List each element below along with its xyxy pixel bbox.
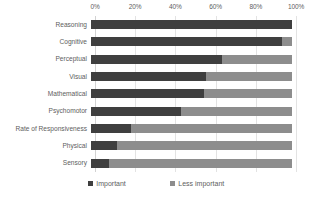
category-label: Reasoning [0, 21, 91, 29]
bar-row: Physical [0, 137, 312, 154]
bar-track [91, 37, 292, 46]
bar-segment-less-important [181, 107, 292, 116]
x-axis-tick-labels: 0%20%40%60%80%100% [95, 3, 296, 15]
bar-segment-important [91, 55, 222, 64]
bar-row: Sensory [0, 155, 312, 172]
bar-segment-less-important [206, 72, 292, 81]
bar-row: Psychomotor [0, 103, 312, 120]
legend-item[interactable]: Important [88, 180, 126, 187]
bar-segment-important [91, 37, 282, 46]
bar-track [91, 72, 292, 81]
bar-segment-important [91, 72, 206, 81]
bar-segment-less-important [282, 37, 292, 46]
bar-track [91, 141, 292, 150]
legend-label: Less important [178, 180, 224, 187]
bar-segment-less-important [131, 124, 292, 133]
legend-label: Important [96, 180, 126, 187]
x-tick-label: 80% [249, 3, 262, 10]
legend-swatch-icon [170, 181, 175, 186]
bar-row: Perceptual [0, 51, 312, 68]
bar-segment-important [91, 89, 204, 98]
bar-track [91, 107, 292, 116]
category-label: Psychomotor [0, 107, 91, 115]
bar-segment-important [91, 20, 292, 29]
bar-segment-less-important [204, 89, 292, 98]
x-tick-label: 60% [209, 3, 222, 10]
chart-plot-area: ReasoningCognitivePerceptualVisualMathem… [0, 16, 312, 172]
category-label: Perceptual [0, 55, 91, 63]
category-label: Mathematical [0, 90, 91, 98]
bar-row: Reasoning [0, 16, 312, 33]
stacked-bar-chart: 0%20%40%60%80%100% ReasoningCognitivePer… [0, 0, 312, 201]
bar-segment-important [91, 107, 181, 116]
category-label: Physical [0, 142, 91, 150]
bar-track [91, 159, 292, 168]
bar-row: Visual [0, 68, 312, 85]
bar-row: Mathematical [0, 85, 312, 102]
category-label: Visual [0, 73, 91, 81]
x-tick-label: 100% [288, 3, 304, 10]
bar-segment-important [91, 124, 131, 133]
bar-row: Rate of Responsiveness [0, 120, 312, 137]
x-tick-label: 20% [129, 3, 142, 10]
category-label: Rate of Responsiveness [0, 125, 91, 133]
bar-track [91, 124, 292, 133]
bar-track [91, 55, 292, 64]
category-label: Cognitive [0, 38, 91, 46]
bar-track [91, 89, 292, 98]
x-tick-label: 40% [169, 3, 182, 10]
bar-segment-important [91, 141, 117, 150]
bar-segment-less-important [222, 55, 292, 64]
legend-swatch-icon [88, 181, 93, 186]
bar-segment-less-important [117, 141, 292, 150]
bar-segment-important [91, 159, 109, 168]
x-tick-label: 0% [90, 3, 99, 10]
chart-legend: ImportantLess important [0, 180, 312, 187]
category-label: Sensory [0, 159, 91, 167]
bar-segment-less-important [109, 159, 292, 168]
bar-row: Cognitive [0, 33, 312, 50]
bar-track [91, 20, 292, 29]
legend-item[interactable]: Less important [170, 180, 224, 187]
